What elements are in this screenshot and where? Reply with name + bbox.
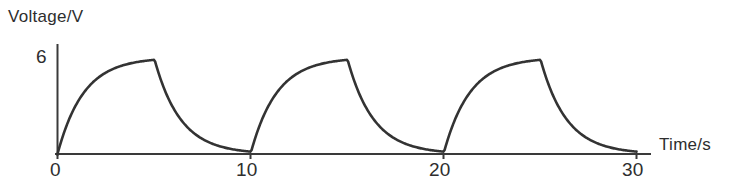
x-tick-label-20: 20 bbox=[429, 160, 451, 179]
y-axis-title: Voltage/V bbox=[8, 8, 83, 25]
rc-waveform-chart: Voltage/V Time/s 6 0 10 20 30 bbox=[0, 0, 730, 195]
y-tick-label-6: 6 bbox=[36, 47, 47, 66]
x-tick-label-0: 0 bbox=[50, 160, 61, 179]
x-axis-title: Time/s bbox=[659, 136, 711, 153]
x-tick-label-10: 10 bbox=[236, 160, 258, 179]
chart-plot-area bbox=[0, 0, 730, 195]
voltage-curve-path bbox=[58, 60, 637, 154]
x-tick-label-30: 30 bbox=[622, 160, 644, 179]
